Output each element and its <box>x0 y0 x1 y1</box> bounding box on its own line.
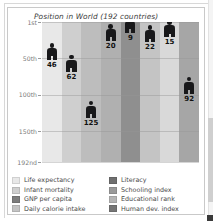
y-axis-tick-label: 50th <box>15 55 37 62</box>
chart-person-marker <box>45 43 58 60</box>
legend-item[interactable]: Daily calorie intake <box>12 204 107 213</box>
legend-item[interactable]: Human dev. index <box>109 204 204 213</box>
legend-item[interactable]: GNP per capita <box>12 195 107 204</box>
page-top-rule <box>4 3 209 4</box>
chart-title: Position in World (192 countries) <box>34 12 158 21</box>
vertical-scrollbar-thumb[interactable] <box>208 118 213 202</box>
page-frame: Position in World (192 countries) 1st50t… <box>0 0 213 221</box>
legend-item-label: Human dev. index <box>121 206 179 212</box>
plot-box: 4662125209221592 <box>42 22 199 162</box>
chart-value-label: 125 <box>80 119 102 127</box>
chart-column-band <box>81 22 101 162</box>
legend-swatch-icon <box>12 177 20 184</box>
y-axis-tick-mark <box>38 22 41 23</box>
y-axis-tick-mark <box>38 95 41 96</box>
legend-item[interactable]: Infant mortality <box>12 185 107 194</box>
chart-value-label: 20 <box>100 42 122 50</box>
chart-person-marker <box>124 22 137 33</box>
chart-person-marker <box>65 55 78 72</box>
y-axis-tick-mark <box>38 162 41 163</box>
chart-column-band <box>62 22 82 162</box>
plot-area: 1st50th100th150th192nd 4662125209221592 <box>15 22 199 168</box>
legend-item-label: GNP per capita <box>24 196 72 202</box>
legend-swatch-icon <box>109 187 117 194</box>
y-axis-tick-label: 192nd <box>15 159 37 166</box>
legend-item[interactable]: Life expectancy <box>12 176 107 185</box>
legend-swatch-icon <box>12 196 20 203</box>
legend-swatch-icon <box>12 187 20 194</box>
y-axis-tick-label: 150th <box>15 128 37 135</box>
chart-column-band <box>121 22 141 162</box>
legend-item[interactable]: Literacy <box>109 176 204 185</box>
y-axis-tick-label: 100th <box>15 91 37 98</box>
y-axis-tick-label: 1st <box>15 19 37 26</box>
chart-value-label: 62 <box>60 73 82 81</box>
chart-person-marker <box>183 77 196 94</box>
page-left-rule <box>4 3 5 218</box>
legend-swatch-icon <box>109 177 117 184</box>
figure-card: Position in World (192 countries) 1st50t… <box>7 7 205 215</box>
legend-item-label: Schooling index <box>121 187 172 193</box>
corner-marker <box>207 215 213 221</box>
legend-column-right: LiteracySchooling indexEducational rankH… <box>109 176 204 214</box>
chart-person-marker <box>85 101 98 118</box>
y-axis-tick-mark <box>38 58 41 59</box>
legend-item-label: Educational rank <box>121 196 175 202</box>
legend-item-label: Literacy <box>121 177 147 183</box>
chart-gridline <box>42 95 199 96</box>
legend-item-label: Daily calorie intake <box>24 206 85 212</box>
legend-swatch-icon <box>12 205 20 212</box>
legend-column-left: Life expectancyInfant mortalityGNP per c… <box>12 176 107 214</box>
chart-legend: Life expectancyInfant mortalityGNP per c… <box>12 176 202 214</box>
chart-person-marker <box>104 24 117 41</box>
chart-person-marker <box>143 25 156 42</box>
legend-item-label: Life expectancy <box>24 177 74 183</box>
chart-gridline <box>42 131 199 132</box>
chart-person-marker <box>163 22 176 37</box>
legend-item-label: Infant mortality <box>24 187 74 193</box>
plot-baseline <box>42 162 199 163</box>
y-axis-tick-mark <box>38 131 41 132</box>
legend-swatch-icon <box>109 205 117 212</box>
legend-item[interactable]: Educational rank <box>109 195 204 204</box>
chart-value-label: 46 <box>42 61 63 69</box>
vertical-scrollbar-track[interactable] <box>208 0 213 221</box>
legend-swatch-icon <box>109 196 117 203</box>
chart-value-label: 15 <box>159 38 181 46</box>
chart-value-label: 9 <box>119 34 141 42</box>
legend-item[interactable]: Schooling index <box>109 185 204 194</box>
chart-value-label: 92 <box>178 95 199 103</box>
